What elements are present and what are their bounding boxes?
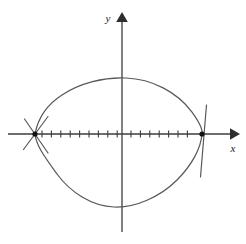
closed-curve [35,78,202,207]
x-axis-arrowhead [230,128,240,140]
left-intercept-point [32,131,37,136]
math-figure-canvas: y x [0,0,246,244]
coordinate-plane-svg: y x [0,0,246,244]
x-axis-label: x [230,142,236,154]
y-axis-label: y [105,12,111,24]
right-intercept-point [199,131,204,136]
y-axis-arrowhead [116,12,128,22]
